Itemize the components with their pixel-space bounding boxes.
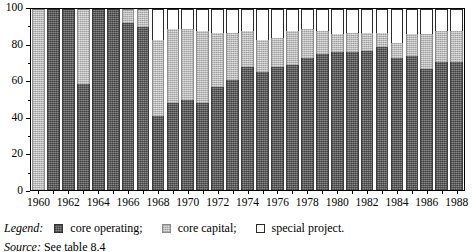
x-tick-labels: 1960196219641966196819701972197419761978… <box>31 194 464 212</box>
legend-swatch-special <box>256 224 265 233</box>
x-label-slot: 1982 <box>360 194 375 212</box>
legend: Legend: core operating;core capital;spec… <box>4 219 474 237</box>
x-label-slot: 1968 <box>151 194 166 212</box>
legend-entry: core operating; <box>54 221 142 236</box>
x-label-slot: 1976 <box>270 194 285 212</box>
plot-area <box>30 8 465 191</box>
y-axis: 020406080100 <box>0 8 30 191</box>
plot-frame <box>30 8 465 191</box>
x-label-slot: 1984 <box>390 194 405 212</box>
x-label-slot: 1974 <box>240 194 255 212</box>
legend-swatch-capital <box>162 224 171 233</box>
y-tick-label: 40 <box>12 112 24 124</box>
legend-entry: core capital; <box>162 221 237 236</box>
x-label-slot: 1986 <box>419 194 434 212</box>
x-label-slot: 1962 <box>61 194 76 212</box>
legend-entry: special project. <box>256 221 345 236</box>
legend-title: Legend: <box>4 221 43 236</box>
x-label-slot: 1980 <box>330 194 345 212</box>
y-tick-label: 100 <box>6 2 23 14</box>
x-label-slot: 1960 <box>31 194 46 212</box>
source-label: Source: <box>4 240 44 252</box>
y-tick-label: 60 <box>12 75 24 87</box>
x-label-slot: 1964 <box>91 194 106 212</box>
y-tick-label: 80 <box>12 39 24 51</box>
legend-swatch-operating <box>54 224 63 233</box>
x-tick-label: 1988 <box>445 194 468 210</box>
y-tick-label: 0 <box>17 185 23 197</box>
source-note: Source: See table 8.4 <box>4 240 106 252</box>
x-axis: 1960196219641966196819701972197419761978… <box>30 191 465 213</box>
stacked-bar-chart-figure: 020406080100 196019621964196619681970197… <box>0 0 476 252</box>
x-label-slot: 1988 <box>449 194 464 212</box>
x-label-slot: 1970 <box>180 194 195 212</box>
x-label-slot: 1972 <box>210 194 225 212</box>
x-label-slot: 1966 <box>121 194 136 212</box>
legend-label: core operating; <box>70 221 142 236</box>
legend-label: special project. <box>272 221 345 236</box>
legend-label: core capital; <box>178 221 237 236</box>
y-tick-label: 20 <box>12 149 24 161</box>
source-text: See table 8.4 <box>44 240 106 252</box>
x-label-slot: 1978 <box>300 194 315 212</box>
